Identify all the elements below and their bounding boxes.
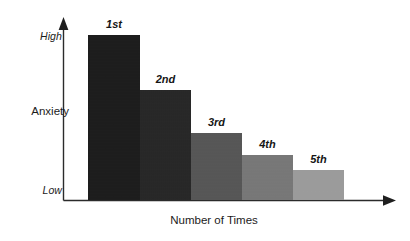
arrow-right-icon xyxy=(383,195,396,205)
x-axis-title-wrap: Number of Times xyxy=(0,214,410,226)
bar-2nd xyxy=(140,90,191,200)
bar-label-4th: 4th xyxy=(242,138,293,150)
bar-label-2nd: 2nd xyxy=(140,73,191,85)
anxiety-bar-chart: 1st 2nd 3rd 4th 5th High Anxiety Low Num… xyxy=(0,0,410,241)
x-axis-title: Number of Times xyxy=(170,214,258,226)
bar-5th xyxy=(293,170,344,200)
y-axis-low-label: Low xyxy=(42,184,62,196)
bar-1st xyxy=(88,35,140,200)
y-axis-title: Anxiety xyxy=(31,105,69,117)
arrow-up-icon xyxy=(59,17,69,30)
bar-label-1st: 1st xyxy=(88,18,140,30)
bar-label-3rd: 3rd xyxy=(191,116,242,128)
bar-label-5th: 5th xyxy=(293,153,344,165)
bar-4th xyxy=(242,155,293,200)
bar-3rd xyxy=(191,133,242,200)
y-axis-high-label: High xyxy=(40,30,62,42)
